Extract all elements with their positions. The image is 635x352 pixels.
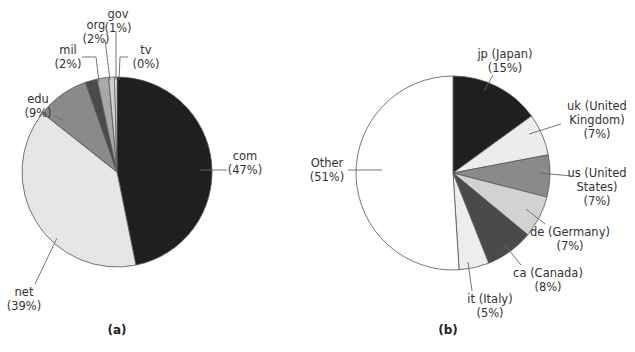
slice-label-ca-canada: ca (Canada)(8%)	[513, 266, 583, 294]
slice-label-us-united: us (UnitedStates)(7%)	[567, 166, 626, 208]
slice-label-uk-united: uk (UnitedKingdom)(7%)	[567, 99, 627, 141]
pie-charts-figure: com(47%)net(39%)edu(9%)mil(2%)org(2%)gov…	[0, 0, 635, 352]
slice-label-jp-japan: jp (Japan)(15%)	[476, 47, 532, 75]
slice-label-mil: mil(2%)	[54, 43, 81, 71]
slice-label-it-italy: it (Italy)(5%)	[467, 292, 512, 320]
pie-slice-other	[356, 76, 459, 270]
caption-b: (b)	[438, 323, 458, 337]
slice-label-net: net(39%)	[7, 285, 42, 313]
slice-label-tv: tv(0%)	[132, 43, 159, 71]
slice-label-com: com(47%)	[228, 149, 263, 177]
leader-line	[82, 57, 99, 82]
pie-slice-com	[117, 77, 212, 265]
leader-line	[105, 40, 110, 80]
pie-chart-b: jp (Japan)(15%)uk (UnitedKingdom)(7%)us …	[310, 47, 627, 320]
slice-label-de-germany: de (Germany)(7%)	[530, 225, 610, 253]
slice-label-edu: edu(9%)	[24, 92, 51, 120]
pie-chart-a: com(47%)net(39%)edu(9%)mil(2%)org(2%)gov…	[7, 7, 263, 313]
slice-label-other: Other(51%)	[310, 156, 345, 184]
leader-line	[119, 57, 128, 80]
caption-a: (a)	[107, 323, 126, 337]
leader-line	[35, 238, 57, 284]
slice-label-gov: gov(1%)	[104, 7, 131, 35]
